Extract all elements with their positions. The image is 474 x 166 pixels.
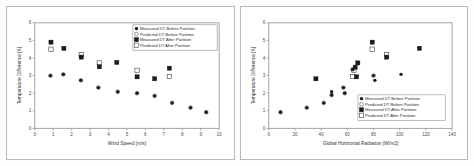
data-point-open-sq	[135, 68, 139, 72]
data-point-filled-sq	[49, 40, 53, 44]
y-tick-label: 2	[29, 91, 32, 96]
y-tick-label: 0	[29, 126, 32, 131]
x-tick-label: 5	[126, 132, 129, 137]
legend-marker-filled-dot	[360, 97, 363, 100]
y-tick-label: 1	[263, 108, 266, 113]
data-points-left	[49, 40, 209, 114]
x-tick-label: 20	[292, 132, 298, 137]
data-point-filled-sq	[153, 77, 157, 81]
data-point-open-sq	[370, 47, 374, 51]
x-tick-label: 7	[163, 132, 166, 137]
data-point-filled-dot	[342, 86, 345, 89]
legend-label: Predicted DT Before Partition	[140, 32, 195, 37]
data-point-filled-dot	[399, 73, 402, 76]
x-tick-label: 10	[217, 132, 223, 137]
data-point-filled-dot	[79, 79, 82, 82]
legend-label: Measured DT Before Partition	[140, 26, 196, 31]
x-tick-label: 80	[371, 132, 377, 137]
data-point-filled-dot	[189, 106, 192, 109]
data-point-filled-dot	[356, 62, 359, 65]
legend-left: Measured DT Before PartitionPredicted DT…	[133, 25, 217, 50]
x-tick-label: 120	[422, 132, 430, 137]
data-point-filled-sq	[97, 65, 101, 69]
x-tick-label: 1	[52, 132, 55, 137]
data-point-filled-sq	[115, 60, 119, 64]
y-tick-label: 5	[263, 38, 266, 43]
data-point-filled-sq	[62, 46, 66, 50]
y-tick-label: 6	[29, 20, 32, 25]
data-point-open-sq	[167, 74, 171, 78]
x-tick-label: 100	[396, 132, 404, 137]
data-point-filled-dot	[279, 111, 282, 114]
legend-label: Predicted DT Before Partition	[365, 102, 420, 107]
y-tick-label: 4	[29, 56, 32, 61]
data-point-filled-dot	[343, 92, 346, 95]
scatter-chart-wind-speed: 0123456789100123456Wind Speed [m/s]Tempe…	[7, 7, 234, 159]
legend-marker-open-dot	[135, 32, 139, 36]
data-point-filled-dot	[314, 77, 317, 80]
legend-label: Measured DT After Partition	[140, 37, 192, 42]
data-point-filled-dot	[330, 90, 333, 93]
data-point-filled-dot	[97, 86, 100, 89]
y-tick-label: 3	[29, 73, 32, 78]
y-tick-label: 6	[263, 20, 266, 25]
data-point-filled-dot	[205, 111, 208, 114]
chart-svg-left: 0123456789100123456Wind Speed [m/s]Tempe…	[7, 7, 234, 159]
chart-svg-right: 0204060801001201400123456Global Horizont…	[241, 7, 467, 159]
data-point-filled-sq	[135, 75, 139, 79]
data-point-filled-dot	[116, 90, 119, 93]
y-tick-label: 5	[29, 38, 32, 43]
y-tick-label: 1	[29, 108, 32, 113]
x-tick-label: 4	[107, 132, 110, 137]
legend-label: Measured DT Before Partition	[365, 96, 421, 101]
x-axis-label: Global Horizontal Radiation [W/m2]	[323, 141, 399, 146]
data-point-filled-dot	[170, 101, 173, 104]
data-point-filled-dot	[62, 73, 65, 76]
y-tick-label: 3	[263, 73, 266, 78]
data-point-filled-sq	[370, 40, 374, 44]
x-tick-label: 2	[70, 132, 73, 137]
data-point-filled-dot	[153, 94, 156, 97]
axes-right: 0204060801001201400123456Global Horizont…	[251, 20, 457, 146]
data-point-open-sq	[350, 74, 354, 78]
data-point-filled-dot	[330, 93, 333, 96]
data-point-filled-sq	[79, 55, 83, 59]
data-point-filled-dot	[322, 101, 325, 104]
x-tick-label: 140	[448, 132, 456, 137]
x-tick-label: 0	[33, 132, 36, 137]
data-point-open-sq	[49, 47, 53, 51]
chart-panel-wind-speed: 0123456789100123456Wind Speed [m/s]Tempe…	[6, 6, 235, 160]
x-tick-label: 3	[89, 132, 92, 137]
y-tick-label: 0	[263, 126, 266, 131]
x-tick-label: 0	[267, 132, 270, 137]
data-point-filled-dot	[373, 79, 376, 82]
x-axis-label: Wind Speed [m/s]	[108, 141, 146, 146]
data-point-filled-dot	[355, 75, 358, 78]
data-point-filled-dot	[135, 92, 138, 95]
legend-marker-filled-sq	[134, 38, 138, 42]
data-point-filled-dot	[49, 74, 52, 77]
figure-frame: 0123456789100123456Wind Speed [m/s]Tempe…	[0, 0, 474, 166]
data-point-filled-dot	[354, 66, 357, 69]
x-tick-label: 6	[144, 132, 147, 137]
y-tick-label: 2	[263, 91, 266, 96]
y-tick-label: 4	[263, 56, 266, 61]
legend-label: Predicted DT After Partition	[140, 43, 191, 48]
legend-marker-open-sq	[359, 113, 363, 117]
data-point-filled-dot	[372, 74, 375, 77]
data-point-filled-sq	[385, 55, 389, 59]
x-tick-label: 60	[345, 132, 351, 137]
x-tick-label: 8	[181, 132, 184, 137]
chart-panel-radiation: 0204060801001201400123456Global Horizont…	[240, 6, 468, 160]
data-point-filled-dot	[305, 106, 308, 109]
legend-marker-filled-dot	[135, 27, 138, 30]
legend-right: Measured DT Before PartitionPredicted DT…	[358, 95, 445, 120]
data-point-open-sq	[97, 61, 101, 65]
data-point-filled-sq	[417, 46, 421, 50]
legend-marker-open-sq	[134, 43, 138, 47]
x-tick-label: 9	[199, 132, 202, 137]
scatter-chart-radiation: 0204060801001201400123456Global Horizont…	[241, 7, 467, 159]
legend-label: Measured DT After Partition	[365, 107, 417, 112]
y-axis-label: Temperature Difference [K]	[251, 47, 256, 104]
x-tick-label: 40	[319, 132, 325, 137]
